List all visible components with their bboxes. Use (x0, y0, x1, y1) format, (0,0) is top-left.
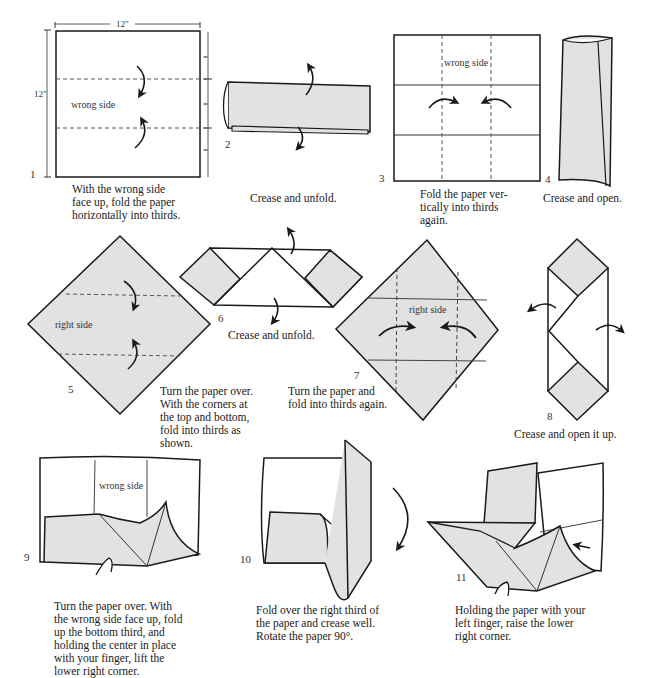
step-9-number: 9 (24, 551, 30, 563)
step-8-caption: Crease and open it up. (514, 428, 617, 441)
step-11-diagram: 11 (428, 463, 603, 596)
step-5-side-label: right side (55, 319, 93, 330)
step-6-diagram: 6 (180, 230, 362, 324)
step-9-caption: Turn the paper over. With the wrong side… (54, 600, 182, 678)
step-8-diagram: 8 (530, 239, 622, 422)
step-3-side-label: wrong side (444, 57, 489, 68)
step-2-number: 2 (225, 138, 231, 150)
step-3-number: 3 (379, 172, 385, 184)
step-4-diagram: 4 (545, 36, 612, 186)
step-6-caption: Crease and unfold. (228, 329, 315, 342)
step-7-number: 7 (354, 369, 360, 381)
width-dimension: 12" (116, 19, 129, 29)
step-10-caption: Fold over the right third of the paper a… (256, 604, 379, 643)
step-1-side-label: wrong side (71, 99, 116, 110)
step-11-caption: Holding the paper with your left finger,… (455, 604, 585, 643)
step-2-caption: Crease and unfold. (250, 192, 337, 205)
step-10-number: 10 (240, 553, 252, 565)
step-10-diagram: 10 (240, 440, 408, 600)
step-1-caption: With the wrong side face up, fold the pa… (72, 183, 180, 222)
equal-mark: = (203, 145, 208, 155)
step-3-caption: Fold the paper ver- tically into thirds … (420, 188, 508, 227)
step-9-diagram: wrong side 9 (24, 456, 200, 575)
step-6-number: 6 (218, 312, 224, 324)
step-11-number: 11 (456, 571, 467, 583)
equal-mark: = (203, 99, 208, 109)
step-4-caption: Crease and open. (543, 192, 622, 205)
step-8-number: 8 (547, 410, 553, 422)
height-dimension: 12" (34, 89, 47, 99)
step-2-diagram: 2 (224, 66, 371, 150)
step-1-number: 1 (30, 168, 36, 180)
step-1-diagram: 12" 12" = = = wrong side 1 (30, 19, 212, 180)
step-5-number: 5 (68, 383, 74, 395)
step-5-caption: Turn the paper over. With the corners at… (160, 385, 253, 450)
equal-mark: = (203, 52, 208, 62)
step-4-number: 4 (545, 173, 551, 185)
step-3-diagram: wrong side 3 (379, 35, 540, 184)
step-9-side-label: wrong side (99, 480, 144, 491)
step-7-side-label: right side (409, 304, 447, 315)
step-7-caption: Turn the paper and fold into thirds agai… (288, 385, 387, 411)
